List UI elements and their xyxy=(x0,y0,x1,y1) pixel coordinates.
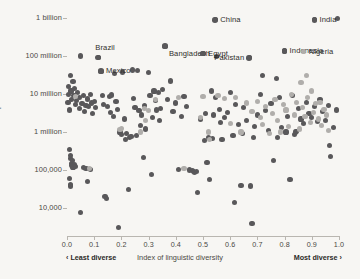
y-tick-label: 10,000 xyxy=(39,203,62,212)
x-axis-most-diverse-note: Most diverse › xyxy=(294,253,342,262)
data-point xyxy=(308,120,313,125)
linguistic-diversity-scatter-chart: Population 1 billion100 million10 millio… xyxy=(0,0,360,279)
data-point xyxy=(138,129,143,134)
x-tick-mark xyxy=(121,236,122,240)
annotation-label: Nigeria xyxy=(309,47,334,56)
data-point xyxy=(67,107,72,112)
data-point xyxy=(168,78,173,83)
data-point xyxy=(233,95,238,100)
data-point xyxy=(77,106,82,111)
data-point xyxy=(215,93,220,98)
data-point xyxy=(298,80,303,85)
annotated-data-point xyxy=(312,17,318,23)
data-point xyxy=(300,105,305,110)
data-point xyxy=(92,99,97,104)
annotation-label: India xyxy=(320,15,337,24)
data-point xyxy=(230,133,235,138)
data-point xyxy=(317,100,322,105)
data-point xyxy=(219,137,224,142)
data-point xyxy=(228,121,233,126)
data-point xyxy=(238,129,243,134)
data-point xyxy=(200,94,205,99)
data-point xyxy=(68,183,73,188)
x-tick-label: 0.1 xyxy=(84,240,104,249)
data-point xyxy=(238,183,243,188)
data-point xyxy=(173,100,178,105)
annotation-label: Mexico xyxy=(106,66,131,75)
data-point xyxy=(181,166,186,171)
data-point xyxy=(255,99,260,104)
data-point xyxy=(278,129,283,134)
x-tick-label: 0.6 xyxy=(220,240,240,249)
annotated-data-point xyxy=(246,55,252,61)
x-tick-label: 0.3 xyxy=(139,240,159,249)
data-point xyxy=(248,183,253,188)
x-tick-mark xyxy=(257,236,258,240)
data-point xyxy=(324,112,329,117)
data-point xyxy=(88,92,93,97)
data-point xyxy=(78,53,83,58)
annotation-label: Brazil xyxy=(95,43,115,52)
data-point xyxy=(122,116,127,121)
x-tick-label: 0.5 xyxy=(193,240,213,249)
x-tick-mark xyxy=(285,236,286,240)
data-point xyxy=(70,79,75,84)
data-point xyxy=(67,147,72,152)
y-tick-label: 100,000 xyxy=(35,165,62,174)
data-point xyxy=(115,107,120,112)
x-tick-label: 0.9 xyxy=(302,240,322,249)
x-tick-mark xyxy=(203,236,204,240)
y-axis-title: Population xyxy=(0,83,1,118)
data-point xyxy=(73,94,78,99)
x-tick-label: 0.2 xyxy=(111,240,131,249)
x-tick-mark xyxy=(67,236,68,240)
x-tick-mark xyxy=(176,236,177,240)
data-point xyxy=(244,100,249,105)
data-point xyxy=(236,122,241,127)
x-tick-label: 1.0 xyxy=(329,240,349,249)
data-point xyxy=(179,114,184,119)
data-point xyxy=(128,134,133,139)
data-point xyxy=(209,88,214,93)
data-point xyxy=(334,107,339,112)
annotation-label: China xyxy=(220,15,240,24)
data-point xyxy=(258,115,263,120)
data-point xyxy=(217,107,222,112)
x-tick-label: 0.7 xyxy=(247,240,267,249)
data-point xyxy=(289,92,294,97)
data-point xyxy=(176,167,181,172)
data-point xyxy=(316,116,321,121)
data-point xyxy=(301,121,306,126)
data-point xyxy=(87,166,92,171)
data-point xyxy=(249,109,254,114)
data-point xyxy=(283,129,288,134)
data-point xyxy=(139,112,144,117)
data-point xyxy=(297,126,302,131)
data-point xyxy=(326,128,331,133)
x-tick-mark xyxy=(312,236,313,240)
data-point xyxy=(160,87,165,92)
x-tick-mark xyxy=(230,236,231,240)
data-point xyxy=(198,115,203,120)
data-point xyxy=(85,179,90,184)
data-point xyxy=(131,96,136,101)
y-tick-label: 10 million xyxy=(30,89,62,98)
x-tick-mark xyxy=(149,236,150,240)
y-tick-label: 1 million xyxy=(34,127,62,136)
data-point xyxy=(104,196,109,201)
x-tick-label: 0.0 xyxy=(57,240,77,249)
data-point xyxy=(111,114,116,119)
data-point xyxy=(302,114,307,119)
x-axis-least-diverse-note: ‹ Least diverse xyxy=(66,253,116,262)
x-tick-mark xyxy=(339,236,340,240)
data-point xyxy=(263,104,268,109)
data-point xyxy=(321,107,326,112)
data-point xyxy=(319,123,324,128)
data-point xyxy=(309,88,314,93)
annotated-data-point xyxy=(162,43,168,49)
annotated-data-point xyxy=(212,17,218,23)
y-tick-label: 1 billion xyxy=(36,13,62,22)
data-point xyxy=(204,160,209,165)
data-point xyxy=(138,123,143,128)
data-point xyxy=(283,107,288,112)
